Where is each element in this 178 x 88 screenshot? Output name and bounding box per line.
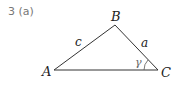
- vertex-label-c: C: [161, 65, 171, 80]
- angle-label-gamma: γ: [135, 56, 142, 69]
- angle-gamma-arc: [144, 60, 148, 70]
- vertex-label-a: A: [41, 64, 51, 79]
- triangle-diagram: B A C c a γ: [0, 0, 178, 88]
- side-label-c: c: [75, 35, 82, 49]
- side-label-a: a: [141, 36, 148, 50]
- vertex-label-b: B: [110, 9, 121, 24]
